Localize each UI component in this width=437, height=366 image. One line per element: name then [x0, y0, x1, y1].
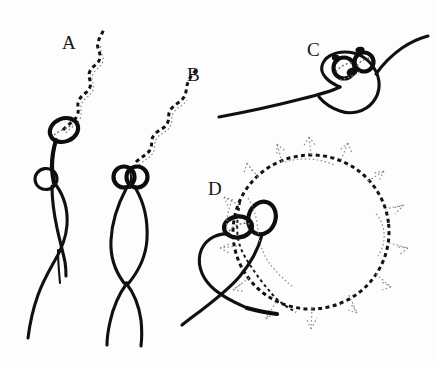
panel-d-spike: [376, 274, 391, 290]
panel-b-group: B: [107, 64, 200, 346]
panel-a-label: A: [62, 32, 76, 53]
panel-b-strand-left: [111, 189, 126, 283]
panel-d-heart-loop-right: [182, 235, 262, 325]
panel-d-inner-arc-right: [376, 214, 384, 256]
panel-b-tail-right: [126, 283, 142, 346]
panel-d-label: D: [208, 178, 222, 199]
panel-d-spike: [244, 163, 258, 177]
figure-container: A B: [0, 0, 437, 366]
panel-d-inner-arc-top: [285, 159, 334, 165]
panel-d-spike: [266, 302, 276, 319]
panel-d-internal-dotted-strand: [248, 198, 292, 286]
panel-d-spike: [303, 137, 316, 155]
panel-b-loop-bridge: [130, 171, 131, 188]
panel-c-group: C: [219, 36, 428, 117]
panel-a-group: A: [28, 28, 104, 338]
panel-d-spike: [306, 308, 317, 329]
panel-d-spike: [368, 171, 384, 181]
figure-canvas: A B: [0, 0, 437, 366]
panel-d-spike: [389, 243, 408, 255]
panel-c-label: C: [307, 39, 320, 60]
panel-a-outer-strand: [28, 185, 67, 338]
panel-b-strand-right: [128, 189, 147, 284]
panel-d-spike: [340, 143, 352, 160]
panel-d-spike: [277, 144, 285, 162]
panel-c-exit-curve: [376, 36, 428, 74]
panel-d-group: D: [182, 137, 408, 329]
panel-b-tail-left: [107, 283, 127, 345]
panel-b-dashed-filament-shadow: [139, 100, 187, 165]
panel-b-label: B: [187, 64, 200, 85]
panel-d-tail: [247, 308, 277, 314]
panel-a-tail-stub: [58, 250, 60, 283]
